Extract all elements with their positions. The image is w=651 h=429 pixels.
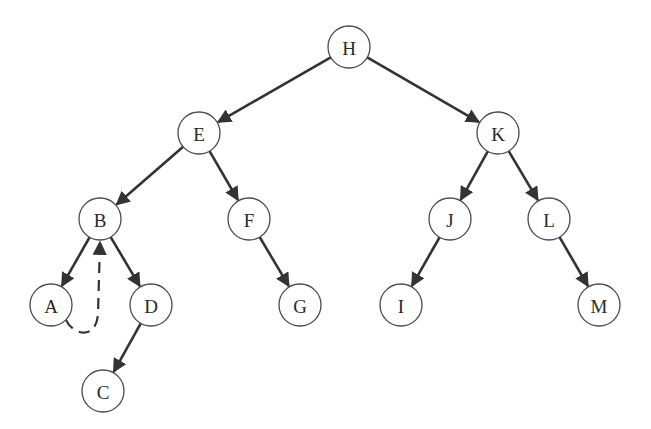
edge-H-E — [218, 57, 331, 122]
edge-H-K — [367, 57, 479, 122]
tree-nodes: HEKBFJLADGIMC — [30, 26, 620, 412]
edge-K-J — [461, 151, 488, 199]
node-J: J — [429, 198, 471, 240]
node-G: G — [279, 284, 321, 326]
node-label: G — [293, 296, 307, 317]
node-label: I — [398, 296, 404, 317]
node-label: H — [342, 38, 356, 59]
node-label: L — [543, 210, 555, 231]
node-label: B — [94, 210, 107, 231]
thread-A-B — [66, 242, 100, 333]
node-label: D — [144, 296, 158, 317]
edge-B-A — [62, 237, 90, 286]
edge-D-C — [114, 323, 141, 371]
node-D: D — [130, 284, 172, 326]
node-label: C — [97, 382, 110, 403]
node-C: C — [82, 370, 124, 412]
binary-tree-diagram: HEKBFJLADGIMC — [0, 0, 651, 429]
tree-edges — [62, 57, 588, 371]
node-label: M — [591, 296, 608, 317]
node-M: M — [578, 284, 620, 326]
node-label: K — [491, 124, 505, 145]
edge-B-D — [111, 237, 140, 286]
node-label: A — [44, 296, 58, 317]
node-label: E — [193, 124, 205, 145]
node-label: F — [244, 210, 255, 231]
thread-links — [66, 242, 100, 333]
node-H: H — [328, 26, 370, 68]
node-L: L — [528, 198, 570, 240]
edge-E-B — [117, 147, 184, 205]
node-B: B — [79, 198, 121, 240]
node-I: I — [380, 284, 422, 326]
edge-K-L — [509, 151, 538, 200]
edge-J-I — [412, 237, 440, 286]
edge-F-G — [260, 237, 289, 286]
node-K: K — [477, 112, 519, 154]
node-A: A — [30, 284, 72, 326]
edge-L-M — [560, 237, 588, 286]
edge-E-F — [210, 151, 238, 200]
node-label: J — [446, 210, 453, 231]
node-E: E — [178, 112, 220, 154]
node-F: F — [228, 198, 270, 240]
